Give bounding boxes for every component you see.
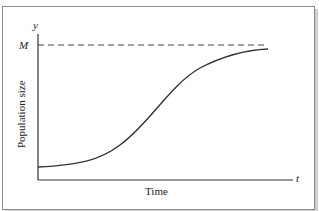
x-axis-symbol: t — [296, 172, 300, 184]
y-axis-symbol: y — [32, 19, 38, 31]
x-axis-label: Time — [145, 185, 168, 197]
logistic-growth-chart: y M t Time Population size — [0, 0, 319, 211]
y-axis-label: Population size — [15, 80, 27, 148]
logistic-curve — [38, 49, 268, 167]
asymptote-label: M — [18, 39, 29, 51]
